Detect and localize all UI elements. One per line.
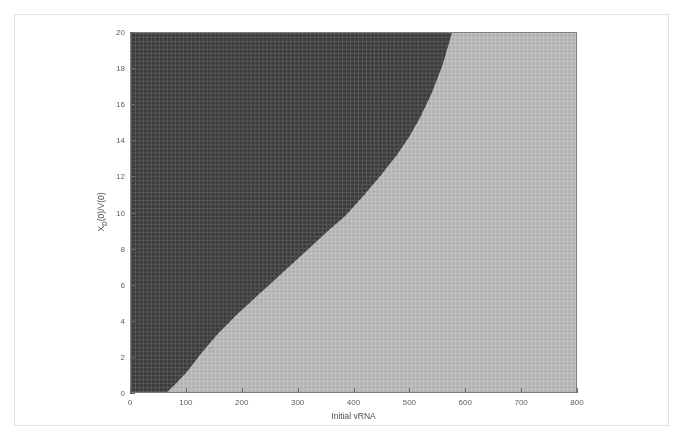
y-tick-label: 10 — [108, 208, 125, 217]
x-tick-label: 800 — [570, 398, 583, 407]
x-tick — [409, 388, 410, 393]
y-tick-label: 20 — [108, 28, 125, 37]
x-tick-label: 400 — [347, 398, 360, 407]
y-tick — [130, 140, 135, 141]
y-tick-label: 8 — [108, 244, 125, 253]
x-tick — [242, 388, 243, 393]
y-tick-label: 0 — [108, 389, 125, 398]
x-tick — [521, 388, 522, 393]
x-tick — [577, 388, 578, 393]
y-tick-label: 18 — [108, 64, 125, 73]
x-tick — [186, 388, 187, 393]
plot-area: 0100200300400500600700800 02468101214161… — [130, 32, 577, 393]
y-tick-label: 2 — [108, 352, 125, 361]
y-tick — [130, 68, 135, 69]
x-axis-label: Initial vRNA — [130, 411, 577, 421]
y-tick — [130, 104, 135, 105]
y-tick — [130, 393, 135, 394]
x-tick — [298, 388, 299, 393]
y-axis-label: XD(0)/V(0) — [96, 192, 108, 231]
y-tick — [130, 249, 135, 250]
x-tick-label: 300 — [291, 398, 304, 407]
x-tick-label: 600 — [459, 398, 472, 407]
y-tick — [130, 176, 135, 177]
y-tick-label: 4 — [108, 316, 125, 325]
y-tick-label: 16 — [108, 100, 125, 109]
figure-canvas: 0100200300400500600700800 02468101214161… — [0, 0, 686, 434]
x-tick-label: 100 — [179, 398, 192, 407]
y-axis-label-subscript: D — [101, 221, 108, 226]
x-tick-label: 700 — [514, 398, 527, 407]
y-tick-label: 14 — [108, 136, 125, 145]
x-tick — [354, 388, 355, 393]
y-tick — [130, 32, 135, 33]
dark-region — [131, 33, 576, 392]
y-tick — [130, 357, 135, 358]
y-axis-label-base: X — [96, 226, 106, 232]
y-tick-label: 6 — [108, 280, 125, 289]
axes-box — [130, 32, 577, 393]
x-tick-label: 0 — [128, 398, 132, 407]
y-tick — [130, 213, 135, 214]
boundary-overlay — [131, 33, 576, 392]
x-tick-label: 200 — [235, 398, 248, 407]
y-tick — [130, 321, 135, 322]
y-tick — [130, 285, 135, 286]
x-tick-label: 500 — [403, 398, 416, 407]
y-axis-label-rest: (0)/V(0) — [96, 192, 106, 221]
y-tick-label: 12 — [108, 172, 125, 181]
x-tick — [465, 388, 466, 393]
